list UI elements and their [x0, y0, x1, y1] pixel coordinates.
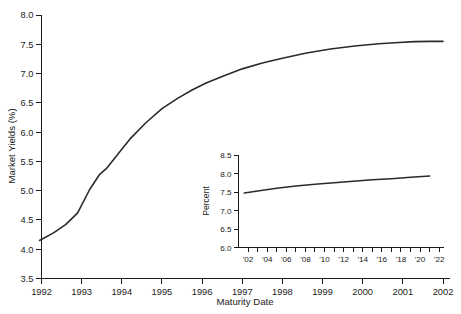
x-tick-label: 2002 — [433, 287, 454, 297]
y-tick-label: 7.0 — [21, 69, 34, 79]
inset-x-axis-ticks — [248, 248, 439, 253]
x-tick-label: 1997 — [232, 287, 253, 297]
x-tick-label: 1999 — [312, 287, 333, 297]
inset-y-tick-label: 8.5 — [220, 151, 232, 160]
inset-x-tick-label: '08 — [300, 255, 311, 264]
market-yields-chart: 3.54.04.55.05.56.06.57.07.58.0 199219931… — [0, 0, 461, 314]
inset-x-tick-label: '06 — [281, 255, 292, 264]
main-x-axis-ticks — [42, 279, 444, 285]
x-tick-label: 1998 — [272, 287, 293, 297]
inset-x-tick-label: '04 — [262, 255, 273, 264]
inset-axes: 6.06.57.07.58.08.5 '02'04'06'08'10'12'14… — [196, 146, 446, 264]
y-tick-label: 5.5 — [21, 157, 34, 167]
inset-x-tick-label: '10 — [319, 255, 330, 264]
y-tick-label: 8.0 — [21, 10, 34, 20]
main-x-axis-ticklabels: 1992199319941995199619971998199920002001… — [31, 287, 453, 297]
main-y-axis-label: Market Yields (%) — [6, 108, 17, 183]
inset-y-tick-label: 6.0 — [220, 244, 232, 253]
inset-y-tick-label: 7.5 — [220, 188, 232, 197]
main-y-axis-ticklabels: 3.54.04.55.05.56.06.57.07.58.0 — [21, 10, 34, 284]
inset-x-tick-label: '14 — [357, 255, 368, 264]
x-tick-label: 1996 — [192, 287, 213, 297]
inset-x-tick-label: '18 — [396, 255, 407, 264]
x-tick-label: 2000 — [352, 287, 373, 297]
inset-x-tick-label: '12 — [338, 255, 349, 264]
x-tick-label: 1994 — [111, 287, 132, 297]
inset-y-axis-label: Percent — [201, 186, 211, 216]
x-tick-label: 1995 — [152, 287, 173, 297]
y-tick-label: 6.5 — [21, 98, 34, 108]
y-tick-label: 4.5 — [21, 215, 34, 225]
chart-figure: 3.54.04.55.05.56.06.57.07.58.0 199219931… — [0, 0, 461, 314]
inset-x-tick-label: '20 — [415, 255, 426, 264]
y-tick-label: 3.5 — [21, 274, 34, 284]
y-tick-label: 6.0 — [21, 128, 34, 138]
inset-y-tick-label: 6.5 — [220, 225, 232, 234]
y-tick-label: 5.0 — [21, 186, 34, 196]
inset-y-tick-label: 8.0 — [220, 170, 232, 179]
x-tick-label: 1992 — [31, 287, 52, 297]
inset-x-tick-label: '16 — [377, 255, 388, 264]
main-x-axis-label: Maturity Date — [216, 296, 273, 307]
inset-background — [196, 146, 446, 264]
x-tick-label: 1993 — [71, 287, 92, 297]
inset-y-tick-label: 7.0 — [220, 207, 232, 216]
x-tick-label: 2001 — [393, 287, 414, 297]
y-tick-label: 7.5 — [21, 40, 34, 50]
inset-x-tick-label: '22 — [434, 255, 445, 264]
y-tick-label: 4.0 — [21, 245, 34, 255]
inset-x-tick-label: '02 — [243, 255, 254, 264]
